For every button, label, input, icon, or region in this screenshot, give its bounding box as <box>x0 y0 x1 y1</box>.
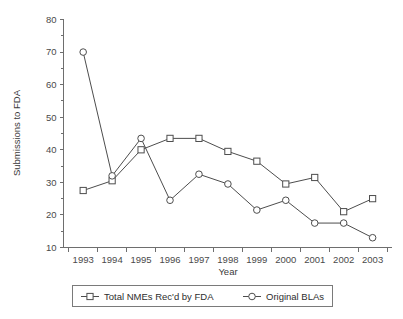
x-tick-label: 1995 <box>130 254 151 265</box>
data-point-marker <box>138 135 145 142</box>
data-point-marker <box>340 220 347 227</box>
y-axis-title: Submissions to FDA <box>11 89 22 176</box>
y-tick-label: 40 <box>46 144 57 155</box>
x-tick-label: 2003 <box>362 254 383 265</box>
legend-items: Total NMEs Rec'd by FDAOriginal BLAs <box>81 291 324 302</box>
x-tick-label: 1994 <box>102 254 123 265</box>
data-point-marker <box>196 171 203 178</box>
line-chart: 1020304050607080 19931994199519961997199… <box>0 0 403 319</box>
x-tick-label: 1993 <box>73 254 94 265</box>
x-tick-label: 1996 <box>159 254 180 265</box>
data-point-marker <box>225 181 232 188</box>
y-tick-label: 10 <box>46 242 57 253</box>
data-point-marker <box>282 197 289 204</box>
data-point-marker <box>80 187 86 193</box>
x-tick-label: 1999 <box>246 254 267 265</box>
data-point-marker <box>254 158 260 164</box>
y-tick-label: 60 <box>46 79 57 90</box>
y-tick-label: 80 <box>46 14 57 25</box>
data-point-marker <box>312 174 318 180</box>
x-tick-label: 1997 <box>188 254 209 265</box>
x-axis-title: Year <box>218 266 237 277</box>
data-point-marker <box>341 209 347 215</box>
data-point-marker <box>109 173 116 180</box>
data-point-marker <box>283 181 289 187</box>
legend-label: Original BLAs <box>266 291 324 302</box>
data-point-marker <box>311 220 318 227</box>
y-tick-label: 30 <box>46 177 57 188</box>
data-point-marker <box>254 207 261 214</box>
legend-marker-square <box>87 293 93 299</box>
legend-marker-circle <box>249 293 256 300</box>
data-point-marker <box>196 135 202 141</box>
y-tick-label: 20 <box>46 209 57 220</box>
y-tick-label: 70 <box>46 46 57 57</box>
chart-container: 1020304050607080 19931994199519961997199… <box>0 0 403 319</box>
legend-label: Total NMEs Rec'd by FDA <box>104 291 214 302</box>
data-point-marker <box>167 135 173 141</box>
legend: Total NMEs Rec'd by FDAOriginal BLAs <box>73 286 333 307</box>
data-point-marker <box>80 49 87 56</box>
data-point-marker <box>167 197 174 204</box>
x-tick-label: 2000 <box>275 254 296 265</box>
x-axis-tick-labels: 1993199419951996199719981999200020012002… <box>73 254 384 265</box>
data-point-marker <box>138 147 144 153</box>
y-tick-label: 50 <box>46 112 57 123</box>
x-tick-label: 1998 <box>217 254 238 265</box>
x-tick-label: 2002 <box>333 254 354 265</box>
x-tick-label: 2001 <box>304 254 325 265</box>
data-point-marker <box>370 196 376 202</box>
data-point-marker <box>369 234 376 241</box>
chart-background <box>0 0 403 319</box>
data-point-marker <box>225 148 231 154</box>
